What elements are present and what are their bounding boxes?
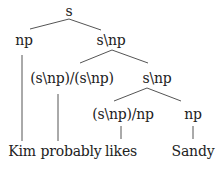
leaf-kim: Kim	[8, 143, 36, 159]
node-adverb-category: (s\np)/(s\np)	[30, 70, 114, 86]
edge-vpinner-verb	[114, 88, 147, 101]
edge-s-vp	[69, 19, 101, 30]
node-verb-category: (s\np)/np	[92, 106, 154, 122]
node-root-s: s	[66, 3, 73, 19]
edge-vp-adverb	[80, 50, 112, 63]
node-object-np: np	[184, 106, 202, 122]
leaf-sandy: Sandy	[172, 143, 215, 159]
node-vp-inner: s\np	[142, 70, 171, 86]
leaf-likes: likes	[105, 143, 137, 159]
edge-vp-vpinner	[112, 50, 148, 63]
node-vp: s\np	[96, 32, 125, 48]
parse-tree-diagram: s np s\np (s\np)/(s\np) s\np (s\np)/np n…	[0, 0, 218, 169]
edge-s-np	[30, 19, 69, 29]
edge-vpinner-object	[147, 88, 181, 101]
leaf-probably: probably	[40, 143, 101, 159]
node-subject-np: np	[15, 32, 33, 48]
